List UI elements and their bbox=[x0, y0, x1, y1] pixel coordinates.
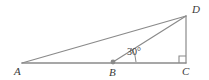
geometry-canvas bbox=[0, 0, 209, 80]
point-marker-dot-icon bbox=[111, 60, 116, 65]
vertex-label-d: D bbox=[192, 4, 200, 15]
geometry-figure: A B C D 30° bbox=[0, 0, 209, 80]
angle-measure-label: 30° bbox=[127, 47, 141, 57]
segment-AD bbox=[22, 16, 186, 63]
vertex-label-c: C bbox=[182, 66, 189, 77]
vertex-label-a: A bbox=[14, 66, 21, 77]
segment-BD bbox=[113, 16, 186, 62]
right-angle-marker-icon bbox=[179, 56, 186, 63]
vertex-label-b: B bbox=[109, 67, 116, 78]
